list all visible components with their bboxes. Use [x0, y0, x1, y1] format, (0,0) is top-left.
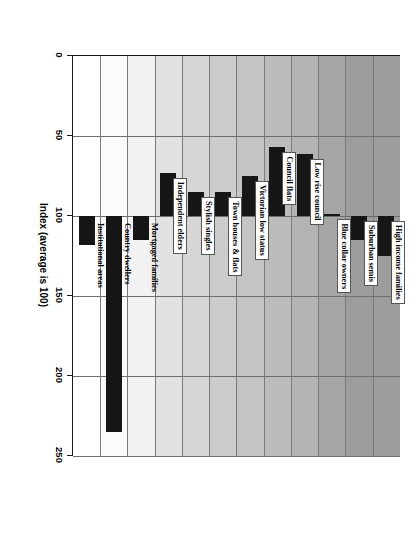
bar-label: High income families — [391, 221, 405, 304]
category-band — [182, 56, 209, 456]
bar-label: Council flats — [282, 152, 296, 205]
gridline — [73, 296, 400, 297]
bar-label: Victorian low status — [255, 181, 269, 260]
gridline — [73, 456, 400, 457]
value-axis-line — [72, 55, 73, 455]
axis-tick-label: 50 — [54, 130, 65, 141]
axis-tick — [67, 455, 73, 456]
bar-label: Mortgaged families — [148, 221, 160, 294]
bar-label: Country dwellers — [121, 221, 133, 287]
bar-label: Institutional areas — [94, 221, 106, 290]
axis-tick — [67, 295, 73, 296]
axis-tick-label: 0 — [54, 52, 65, 57]
gridline — [73, 376, 400, 377]
bar-label: Low rise council — [310, 159, 324, 225]
bar — [324, 214, 340, 216]
bar — [133, 216, 149, 240]
gridline — [73, 136, 400, 137]
axis-tick-label: 250 — [54, 447, 65, 463]
axis-title: Index (average is 100) — [38, 55, 49, 455]
axis-tick — [67, 135, 73, 136]
axis-tick — [67, 215, 73, 216]
bar-label: Suburban semis — [364, 221, 378, 286]
bar-label: Town houses & flats — [228, 197, 242, 276]
bar-label: Blue collar owners — [337, 219, 351, 293]
category-band — [291, 56, 318, 456]
bar-chart-plot-area: High income familiesSuburban semisBlue c… — [73, 55, 400, 455]
axis-tick — [67, 55, 73, 56]
bar-label: Independent elders — [173, 178, 187, 254]
axis-tick — [67, 375, 73, 376]
axis-tick-label: 100 — [54, 207, 65, 223]
bar — [79, 216, 95, 245]
category-axis-line — [73, 55, 400, 56]
axis-tick-label: 150 — [54, 287, 65, 303]
bar-label: Stylish singles — [201, 197, 215, 255]
rotated-chart-stage: High income familiesSuburban semisBlue c… — [0, 0, 419, 549]
bar — [106, 216, 122, 432]
axis-tick-label: 200 — [54, 367, 65, 383]
